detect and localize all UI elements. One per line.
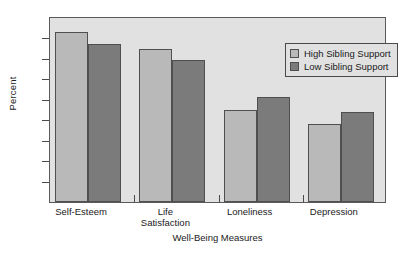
y-tick-mark <box>42 182 49 183</box>
y-tick-mark <box>42 100 49 101</box>
y-tick-mark <box>42 120 49 121</box>
chart-legend: High Sibling SupportLow Sibling Support <box>285 43 398 77</box>
legend-item: High Sibling Support <box>290 47 391 60</box>
x-axis-category-line: Satisfaction <box>123 217 207 228</box>
y-axis-title: Percent <box>7 64 18 124</box>
bar-high-sibling-support <box>224 110 257 202</box>
x-axis-category-label: LifeSatisfaction <box>123 206 207 228</box>
bar-low-sibling-support <box>341 112 374 202</box>
y-tick-mark <box>42 38 49 39</box>
x-axis-category-line: Life <box>123 206 207 217</box>
y-tick-mark <box>42 59 49 60</box>
x-axis-tick <box>134 195 135 202</box>
legend-swatch-icon <box>290 49 299 58</box>
x-axis-category-line: Loneliness <box>208 206 292 217</box>
y-tick-mark <box>42 161 49 162</box>
bar-high-sibling-support <box>308 124 341 202</box>
legend-label: Low Sibling Support <box>304 61 389 72</box>
x-axis-tick <box>303 195 304 202</box>
y-tick-mark <box>42 79 49 80</box>
x-axis-category-label: Self-Esteem <box>39 206 123 217</box>
x-axis-category-line: Depression <box>292 206 376 217</box>
bar-low-sibling-support <box>88 44 121 202</box>
legend-item: Low Sibling Support <box>290 60 391 73</box>
x-axis-title: Well-Being Measures <box>49 232 386 243</box>
x-axis-category-label: Loneliness <box>208 206 292 217</box>
legend-swatch-icon <box>290 62 299 71</box>
x-axis-category-line: Self-Esteem <box>39 206 123 217</box>
plot-area-frame: High Sibling SupportLow Sibling Support <box>49 17 386 203</box>
bar-chart: Percent 0102030405060708090 High Sibling… <box>0 0 403 260</box>
x-axis-category-label: Depression <box>292 206 376 217</box>
legend-label: High Sibling Support <box>304 48 391 59</box>
x-axis-tick <box>219 195 220 202</box>
y-tick-mark <box>42 141 49 142</box>
bar-low-sibling-support <box>172 60 205 202</box>
bar-high-sibling-support <box>139 49 172 202</box>
bar-low-sibling-support <box>257 97 290 202</box>
bar-high-sibling-support <box>55 32 88 202</box>
